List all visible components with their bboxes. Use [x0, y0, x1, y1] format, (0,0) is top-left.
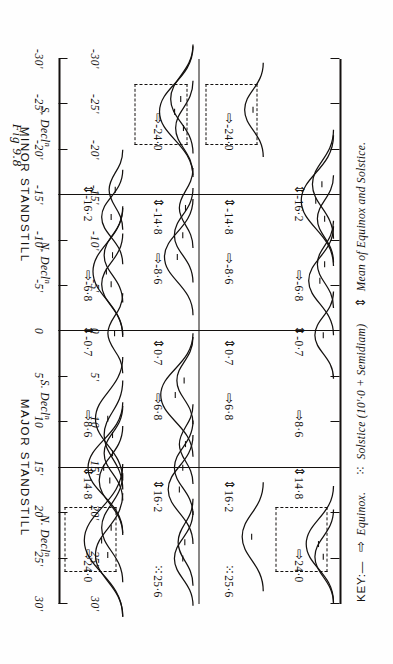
mean-marker-icon: ⇕ [352, 296, 368, 307]
equinox-marker-icon: ⇨ [352, 540, 368, 551]
distribution-curve [312, 130, 333, 239]
key-item: ⇨Equinox. [352, 492, 368, 552]
figure-plate: Fig 9.8 30'30'25'25'20'20'15'15'10105'5'… [0, 0, 393, 664]
legend-key: KEY:— ⇨Equinox.⁙Solstice (10'·0 + Semidi… [352, 126, 368, 602]
distribution-curve [308, 226, 333, 335]
distribution-curve [101, 473, 122, 582]
solstice-marker-icon: ⁙ [352, 465, 368, 476]
panel-header: S. Decln [38, 59, 52, 195]
group-header: MAJOR STANDSTILL [18, 332, 30, 605]
key-item: ⇕Mean of Equinox and Solstice. [352, 142, 368, 308]
key-item-label: Mean of Equinox and Solstice. [354, 142, 366, 292]
key-items: ⇨Equinox.⁙Solstice (10'·0 + Semidiam)⇕Me… [353, 126, 365, 552]
group-header: MINOR STANDSTILL [18, 59, 30, 332]
distribution-curve [164, 199, 193, 315]
key-item-label: Equinox. [354, 492, 366, 536]
key-item-label: Solstice (10'·0 + Semidiam) [354, 324, 366, 460]
key-item: ⁙Solstice (10'·0 + Semidiam) [352, 324, 368, 476]
panel-header-label: S. Decln [38, 332, 52, 468]
distribution-curves [58, 59, 339, 604]
panel-header-label: S. Decln [38, 59, 52, 195]
panel-header-label: N. Decln [38, 195, 52, 331]
panel-header: N. Decln [38, 195, 52, 331]
distribution-curve [160, 333, 192, 457]
panel-header: S. Decln [38, 332, 52, 468]
key-title: KEY:— [354, 561, 366, 602]
axis-frame: 30'30'25'25'20'20'15'15'10105'5'00-5'-5'… [58, 59, 339, 604]
panel-header-label: N. Decln [38, 468, 52, 604]
distribution-curve [242, 482, 263, 591]
panel-header: N. Decln [38, 468, 52, 604]
